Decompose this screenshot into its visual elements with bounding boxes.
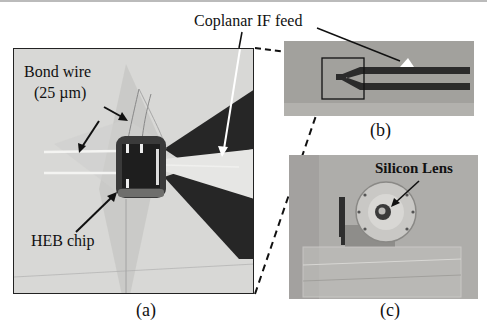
- heb-chip-label: HEB chip: [31, 232, 95, 250]
- panel-a-photo: Bond wire (25 µm) HEB chip: [13, 48, 254, 294]
- top-rule: [0, 0, 487, 2]
- coplanar-feed-board: [284, 41, 474, 116]
- panel-c-photo: Silicon Lens: [289, 155, 478, 299]
- caption-b: (b): [370, 120, 391, 141]
- coplanar-if-feed-label: Coplanar IF feed: [194, 12, 302, 30]
- panel-b-photo: [284, 41, 474, 116]
- bond-wire-size-label: (25 µm): [34, 84, 86, 102]
- silicon-lens-label: Silicon Lens: [375, 160, 453, 177]
- caption-c: (c): [380, 300, 400, 321]
- caption-a: (a): [136, 300, 156, 321]
- bond-wire-label: Bond wire: [24, 63, 91, 81]
